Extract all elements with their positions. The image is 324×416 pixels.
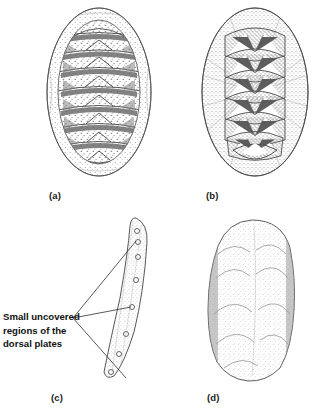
panel-c-label: (c): [51, 392, 63, 403]
panel-d: [202, 218, 302, 384]
figure-canvas: (a): [0, 0, 324, 416]
girdle-outline: [208, 220, 295, 381]
annotation-line-1: Small uncovered: [3, 310, 80, 324]
annotation-line-2: regions of the: [3, 324, 80, 338]
panel-d-label: (d): [207, 392, 220, 403]
annotation-small-uncovered-regions: Small uncovered regions of the dorsal pl…: [3, 310, 80, 351]
annotation-line-3: dorsal plates: [3, 337, 80, 351]
panel-d-drawing: [202, 218, 302, 384]
